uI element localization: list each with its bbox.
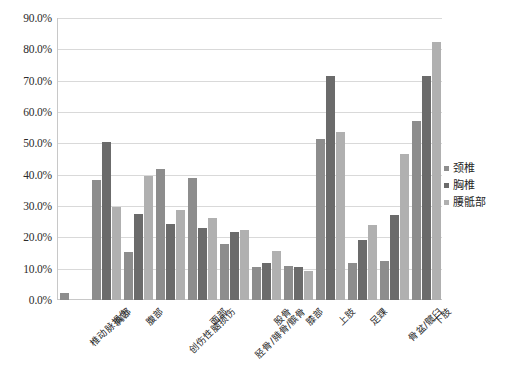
bar-group (314, 18, 346, 300)
chart-legend: 颈椎胸椎腰骶部 (444, 160, 508, 211)
bar (272, 251, 281, 300)
y-axis-tick-label: 30.0% (0, 200, 52, 212)
y-axis-tick-label: 50.0% (0, 137, 52, 149)
y-axis-tick-label: 90.0% (0, 12, 52, 24)
x-axis-tick-label: 上肢 (334, 304, 358, 328)
bar-group (410, 18, 442, 300)
bar (112, 207, 121, 300)
x-axis-labels: 椎动脉损伤胸部腹部创伤性脑损伤面部胫骨/腓骨/髌骨股骨膝部上肢足踝骨盆/髋臼下肢 (58, 302, 442, 389)
x-axis-tick-label: 足踝 (366, 304, 390, 328)
bar-group (346, 18, 378, 300)
bar-group (122, 18, 154, 300)
bar (156, 169, 165, 300)
bar (326, 76, 335, 300)
bar (348, 263, 357, 300)
y-axis-tick-label: 10.0% (0, 263, 52, 275)
bar (390, 215, 399, 300)
legend-swatch (444, 183, 449, 188)
bar (304, 271, 313, 300)
bar (358, 240, 367, 300)
bar (144, 176, 153, 300)
bar (124, 252, 133, 300)
bar-group (218, 18, 250, 300)
bar-group (282, 18, 314, 300)
bar-group (186, 18, 218, 300)
y-axis-tick-label: 0.0% (0, 294, 52, 306)
bar (316, 139, 325, 300)
bar-group (154, 18, 186, 300)
bar (188, 178, 197, 300)
bar (176, 210, 185, 300)
bar (412, 121, 421, 300)
bar-group (58, 18, 90, 300)
bar (92, 180, 101, 300)
bar (262, 263, 271, 300)
y-axis-tick-label: 40.0% (0, 169, 52, 181)
legend-item: 胸椎 (444, 177, 508, 194)
bar-chart: 0.0%10.0%20.0%30.0%40.0%50.0%60.0%70.0%8… (0, 0, 510, 389)
y-axis-tick-label: 70.0% (0, 75, 52, 87)
bar (60, 293, 69, 300)
bar (220, 244, 229, 300)
bar (368, 225, 377, 301)
bar (400, 154, 409, 300)
y-axis-tick-label: 80.0% (0, 43, 52, 55)
bar (166, 224, 175, 300)
x-axis-tick-label: 腹部 (142, 304, 166, 328)
legend-swatch (444, 200, 449, 205)
bar-group (378, 18, 410, 300)
bar (432, 42, 441, 301)
bar (294, 267, 303, 300)
bar (240, 230, 249, 301)
bar (284, 266, 293, 300)
bars-layer (58, 18, 442, 300)
bar (380, 261, 389, 300)
x-axis-tick-label: 膝部 (302, 304, 326, 328)
bar (252, 267, 261, 300)
legend-item: 腰骶部 (444, 194, 508, 211)
legend-item: 颈椎 (444, 160, 508, 177)
bar-group (90, 18, 122, 300)
bar (336, 132, 345, 300)
bar (230, 232, 239, 300)
bar (208, 218, 217, 300)
bar (422, 76, 431, 300)
bar (102, 142, 111, 300)
bar (198, 228, 207, 300)
legend-label: 颈椎 (453, 163, 475, 174)
legend-swatch (444, 166, 449, 171)
bar (134, 214, 143, 300)
y-axis-tick-label: 20.0% (0, 231, 52, 243)
y-axis-tick-label: 60.0% (0, 106, 52, 118)
legend-label: 腰骶部 (453, 197, 486, 208)
bar-group (250, 18, 282, 300)
legend-label: 胸椎 (453, 180, 475, 191)
